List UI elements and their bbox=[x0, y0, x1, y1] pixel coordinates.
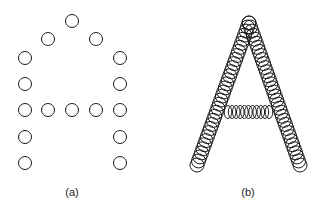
circle-marker bbox=[190, 158, 204, 172]
circle-marker bbox=[66, 15, 79, 28]
circle-marker bbox=[114, 52, 127, 65]
circle-marker bbox=[292, 154, 306, 168]
circle-marker bbox=[66, 104, 79, 117]
circle-marker bbox=[90, 33, 103, 46]
circle-marker bbox=[42, 104, 55, 117]
circle-marker bbox=[191, 154, 205, 168]
circle-marker bbox=[19, 104, 32, 117]
panel-b-dense-circles bbox=[190, 16, 307, 172]
circle-marker bbox=[114, 104, 127, 117]
circle-marker bbox=[114, 157, 127, 170]
circle-marker bbox=[42, 33, 55, 46]
figure-canvas bbox=[0, 0, 330, 212]
panel-a-sparse-circles bbox=[19, 15, 127, 170]
circle-marker bbox=[290, 150, 304, 164]
circle-marker bbox=[193, 150, 207, 164]
circle-marker bbox=[19, 131, 32, 144]
circle-marker bbox=[90, 104, 103, 117]
panel-a-label: (a) bbox=[65, 186, 78, 198]
circle-marker bbox=[293, 158, 307, 172]
circle-marker bbox=[19, 52, 32, 65]
circle-marker bbox=[114, 78, 127, 91]
circle-marker bbox=[19, 157, 32, 170]
circle-marker bbox=[114, 131, 127, 144]
circle-marker bbox=[19, 78, 32, 91]
panel-b-label: (b) bbox=[241, 186, 254, 198]
